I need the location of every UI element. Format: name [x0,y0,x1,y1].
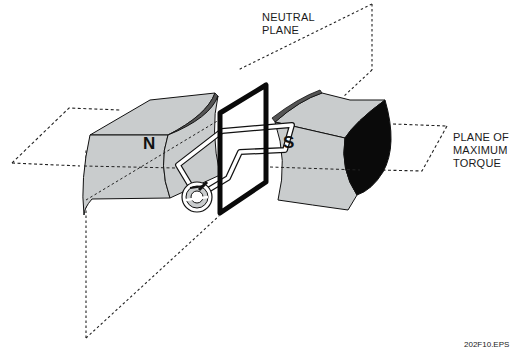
torque-label-line-1: PLANE OF [453,131,509,144]
commutator [182,182,212,212]
neutral-plane-label: NEUTRAL PLANE [262,11,315,37]
torque-label-line-3: TORQUE [453,157,509,170]
neutral-plane-label-line-1: NEUTRAL [262,11,315,24]
south-pole-label: S [283,133,294,153]
figure-id: 202F10.EPS [464,340,509,349]
north-pole-label: N [143,134,155,154]
diagram-canvas [0,0,513,354]
neutral-plane-label-line-2: PLANE [262,24,315,37]
plane-of-maximum-torque-label: PLANE OF MAXIMUM TORQUE [453,131,509,170]
torque-label-line-2: MAXIMUM [453,144,509,157]
dc-motor-diagram: NEUTRAL PLANE PLANE OF MAXIMUM TORQUE N … [0,0,513,354]
